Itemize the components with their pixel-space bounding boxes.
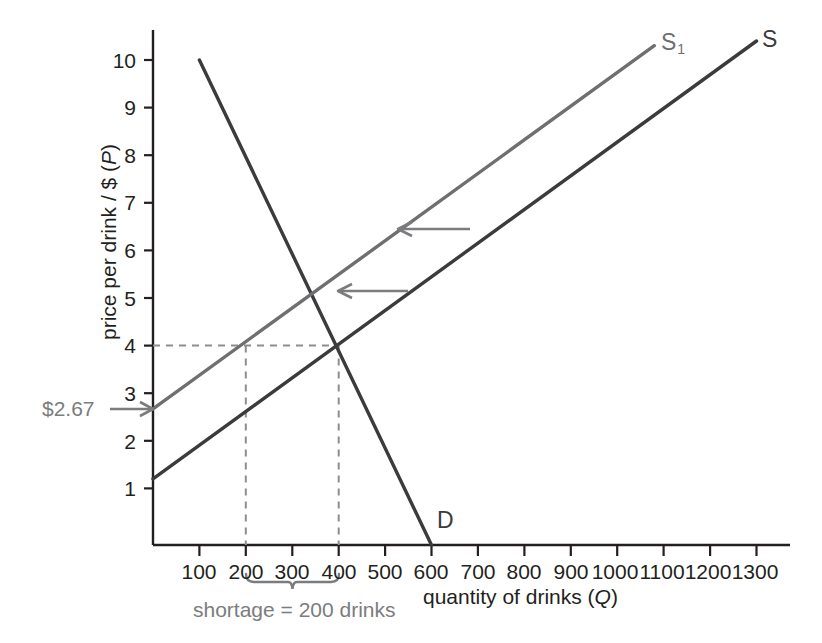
x-axis-title-text: quantity of drinks (	[423, 585, 595, 608]
y-axis-title-variable: P	[97, 151, 120, 165]
x-tick-label-100: 100	[172, 561, 226, 582]
y-tick-label-10: 10	[102, 50, 136, 71]
demand-curve-label: D	[437, 509, 454, 532]
x-tick-label-600: 600	[404, 561, 458, 582]
supply-shift-arrow-upper	[398, 222, 470, 236]
x-axis-ticks	[199, 545, 756, 556]
x-tick-label-1200: 1200	[681, 561, 735, 582]
supply-curve-original-label: S	[762, 28, 777, 51]
supply-shift-arrow-lower	[338, 284, 408, 298]
supply-shifted-label-text: S	[661, 29, 676, 55]
y-axis-ticks	[144, 60, 153, 488]
supply-demand-chart: 10 9 8 7 6 5 4 3 2 1 100 200 300 400 500…	[0, 0, 822, 643]
y-tick-label-9: 9	[102, 97, 136, 118]
x-tick-label-1000: 1000	[588, 561, 642, 582]
x-tick-label-1300: 1300	[728, 561, 782, 582]
x-axis-title-paren: )	[611, 585, 618, 608]
supply-curve-original	[153, 41, 757, 479]
y-axis-title-text: price per drink / $ (	[97, 165, 120, 340]
x-tick-label-800: 800	[497, 561, 551, 582]
equilibrium-guides	[153, 346, 339, 545]
supply-shifted-label-subscript: 1	[677, 41, 685, 57]
supply-curve-shifted-label: S1	[661, 31, 684, 54]
x-tick-label-300: 300	[265, 561, 319, 582]
y-tick-label-1: 1	[102, 478, 136, 499]
y-tick-label-3: 3	[102, 383, 136, 404]
shortage-note-label: shortage = 200 drinks	[193, 599, 396, 620]
x-axis-title: quantity of drinks (Q)	[423, 586, 618, 607]
y-tick-label-2: 2	[102, 431, 136, 452]
y-axis-title-paren: )	[97, 144, 120, 151]
price-callout-label: $2.67	[42, 398, 95, 419]
y-axis-title: price per drink / $ (P)	[98, 144, 119, 340]
x-axis-title-variable: Q	[595, 585, 611, 608]
